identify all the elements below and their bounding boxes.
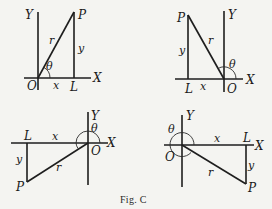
label-P: P: [176, 11, 186, 25]
label-Y: Y: [186, 109, 195, 123]
label-x: x: [52, 130, 59, 143]
label-L: L: [242, 131, 251, 145]
radius-line-r: [182, 145, 246, 184]
radius-line-r: [38, 12, 74, 78]
label-y: y: [77, 42, 85, 55]
label-L: L: [23, 129, 32, 143]
label-P: P: [247, 181, 257, 195]
label-r: r: [208, 34, 214, 47]
label-theta: θ: [229, 58, 236, 71]
label-Y: Y: [25, 8, 34, 22]
label-X: X: [254, 139, 264, 153]
label-r: r: [56, 161, 62, 174]
label-L: L: [184, 82, 193, 96]
label-x: x: [214, 132, 221, 145]
label-O: O: [27, 79, 37, 93]
label-O: O: [165, 150, 175, 164]
label-O: O: [91, 144, 101, 158]
label-X: X: [92, 71, 102, 85]
label-x: x: [200, 80, 207, 93]
label-r: r: [208, 166, 214, 179]
label-theta: θ: [168, 123, 175, 136]
label-X: X: [106, 136, 116, 150]
label-y: y: [15, 153, 23, 166]
label-y: y: [247, 159, 255, 172]
label-P: P: [15, 180, 25, 194]
figure-c: Y P r y θ X O x L P Y r y θ X L x O Y θ …: [0, 0, 272, 209]
label-Y: Y: [228, 8, 237, 22]
panel-quadrant-1: Y P r y θ X O x L: [24, 8, 102, 94]
panel-quadrant-2: P Y r y θ X L x O: [175, 8, 255, 96]
label-Y: Y: [91, 109, 100, 123]
label-r: r: [49, 34, 55, 47]
figure-caption: Fig. C: [120, 194, 147, 205]
radius-line-r: [188, 15, 224, 79]
label-L: L: [69, 80, 78, 94]
panel-quadrant-3: Y θ L x X O y r P: [11, 109, 116, 194]
label-O: O: [227, 82, 237, 96]
label-X: X: [245, 73, 255, 87]
label-x: x: [53, 79, 60, 92]
panel-quadrant-4: Y θ x L X O y r P: [164, 109, 264, 195]
label-P: P: [77, 8, 87, 22]
label-y: y: [178, 44, 186, 57]
label-theta: θ: [46, 60, 53, 73]
label-theta: θ: [91, 122, 98, 135]
